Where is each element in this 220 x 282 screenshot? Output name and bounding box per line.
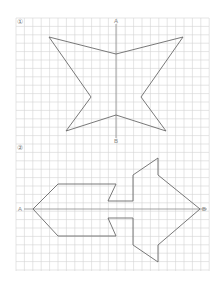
figure-1-number: ①: [17, 19, 23, 26]
axis-label-a: A: [18, 206, 22, 212]
figure-2-number: ②: [17, 145, 23, 152]
axis-label-a: A: [114, 18, 118, 24]
axis-label-b: B: [202, 206, 206, 212]
symmetry-worksheet: [0, 0, 220, 282]
axis-label-b: B: [114, 138, 118, 144]
